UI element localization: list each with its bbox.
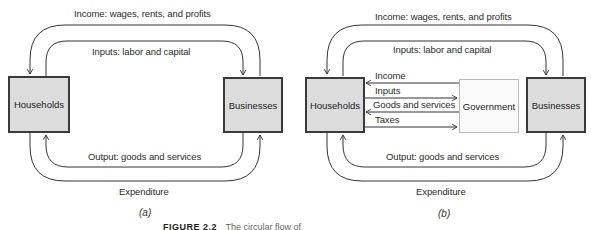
- businesses-node-b: Businesses: [526, 77, 586, 133]
- businesses-node-a: Businesses: [223, 77, 283, 133]
- figure-caption-text: The circular flow of: [226, 222, 302, 230]
- figure-number: FIGURE 2.2: [163, 222, 217, 230]
- inputs-flow-label-b: Inputs: labor and capital: [393, 44, 491, 55]
- households-node-a: Households: [8, 76, 70, 133]
- households-node-b: Households: [305, 77, 365, 133]
- panel-label-b: (b): [438, 208, 450, 219]
- expenditure-flow-label-a: Expenditure: [119, 186, 169, 197]
- figure-caption: FIGURE 2.2 The circular flow of: [163, 222, 301, 230]
- gov-goods-services-label: Goods and services: [373, 99, 455, 110]
- inputs-flow-label-a: Inputs: labor and capital: [92, 46, 190, 57]
- expenditure-flow-label-b: Expenditure: [416, 186, 466, 197]
- output-flow-label-b: Output: goods and services: [386, 151, 499, 162]
- output-flow-label-a: Output: goods and services: [88, 151, 201, 162]
- government-node: Government: [459, 79, 519, 133]
- gov-inputs-label: Inputs: [375, 85, 400, 96]
- gov-income-label: Income: [375, 70, 406, 81]
- income-flow-label-b: Income: wages, rents, and profits: [375, 11, 512, 22]
- income-flow-label-a: Income: wages, rents, and profits: [74, 8, 211, 19]
- gov-taxes-label: Taxes: [375, 114, 399, 125]
- panel-label-a: (a): [139, 207, 151, 218]
